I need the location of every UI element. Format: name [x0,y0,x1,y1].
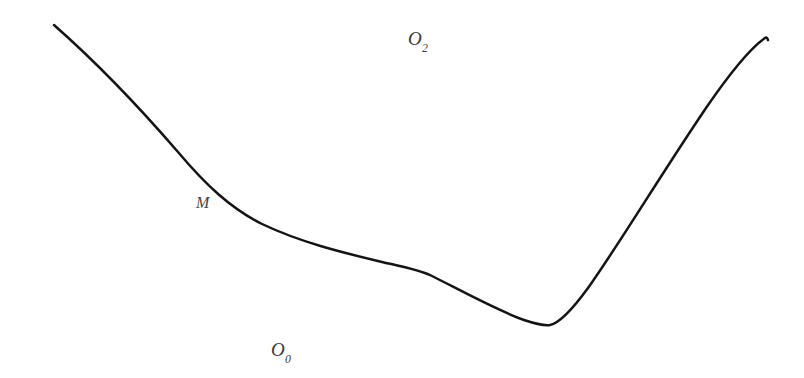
region-label-lower-subscript: 0 [285,353,291,366]
region-label-lower: O0 [271,340,291,364]
canvas-background [0,0,804,378]
region-label-lower-base: O [271,339,285,360]
region-label-upper: O2 [408,29,428,53]
region-label-upper-base: O [408,28,422,49]
curve-marker-label: M [196,195,209,211]
figure-canvas [0,0,804,378]
region-label-upper-subscript: 2 [422,42,428,55]
